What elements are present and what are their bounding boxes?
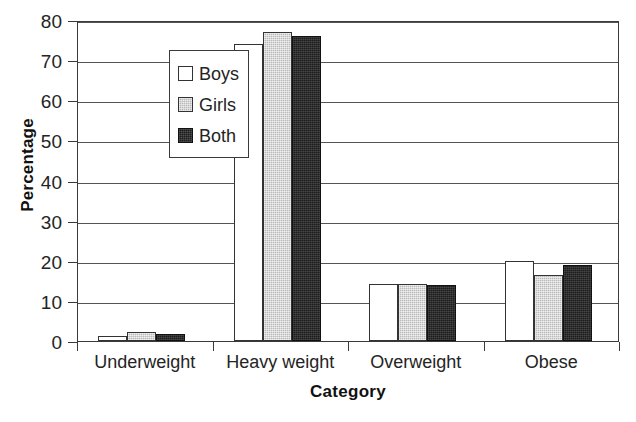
gridline <box>78 263 618 264</box>
bar-obese-girls <box>534 275 563 341</box>
y-tick-label: 0 <box>4 333 62 352</box>
y-tick-label: 20 <box>4 253 62 272</box>
y-tick-label: 40 <box>4 173 62 192</box>
bar-obese-boys <box>505 261 534 341</box>
gridline <box>78 223 618 224</box>
bar-overweight-boys <box>369 284 398 341</box>
bar-underweight-boys <box>98 336 127 341</box>
gray-square-icon <box>178 97 193 112</box>
chart-legend: BoysGirlsBoth <box>169 50 249 158</box>
x-category-label-heavy-weight: Heavy weight <box>213 352 349 373</box>
plot-area: BoysGirlsBoth <box>77 21 619 342</box>
x-category-label-underweight: Underweight <box>77 352 213 373</box>
x-category-label-obese: Obese <box>484 352 620 373</box>
bar-overweight-both <box>427 285 456 341</box>
legend-item-boys: Boys <box>178 58 248 89</box>
x-tick-mark <box>77 342 78 351</box>
bar-chart: Percentage 01020304050607080 BoysGirlsBo… <box>0 0 636 422</box>
gridline <box>78 142 618 143</box>
gridline <box>78 183 618 184</box>
y-tick-label: 60 <box>4 92 62 111</box>
y-tick-mark <box>68 342 77 343</box>
y-tick-mark <box>68 302 77 303</box>
y-tick-label: 50 <box>4 132 62 151</box>
gridline <box>78 62 618 63</box>
y-tick-label: 10 <box>4 293 62 312</box>
legend-label: Boys <box>199 65 239 83</box>
x-axis-title: Category <box>77 382 619 402</box>
black-square-icon <box>178 128 193 143</box>
y-tick-mark <box>68 61 77 62</box>
legend-item-girls: Girls <box>178 89 248 120</box>
bar-underweight-both <box>156 334 185 341</box>
y-tick-mark <box>68 101 77 102</box>
x-tick-mark <box>619 342 620 351</box>
gridline <box>78 102 618 103</box>
x-tick-mark <box>213 342 214 351</box>
bar-heavy-weight-both <box>292 36 321 341</box>
y-tick-mark <box>68 21 77 22</box>
bar-overweight-girls <box>398 284 427 341</box>
y-tick-mark <box>68 262 77 263</box>
y-tick-label: 70 <box>4 52 62 71</box>
y-tick-label: 30 <box>4 213 62 232</box>
bar-heavy-weight-girls <box>263 32 292 341</box>
x-category-label-overweight: Overweight <box>348 352 484 373</box>
bar-underweight-girls <box>127 332 156 341</box>
legend-label: Both <box>199 127 236 145</box>
y-tick-label: 80 <box>4 12 62 31</box>
y-tick-mark <box>68 222 77 223</box>
gridline <box>78 22 618 23</box>
y-tick-mark <box>68 141 77 142</box>
legend-label: Girls <box>199 96 236 114</box>
y-tick-mark <box>68 182 77 183</box>
x-tick-mark <box>348 342 349 351</box>
white-square-icon <box>178 66 193 81</box>
x-tick-mark <box>484 342 485 351</box>
bar-obese-both <box>563 265 592 341</box>
legend-item-both: Both <box>178 120 248 151</box>
